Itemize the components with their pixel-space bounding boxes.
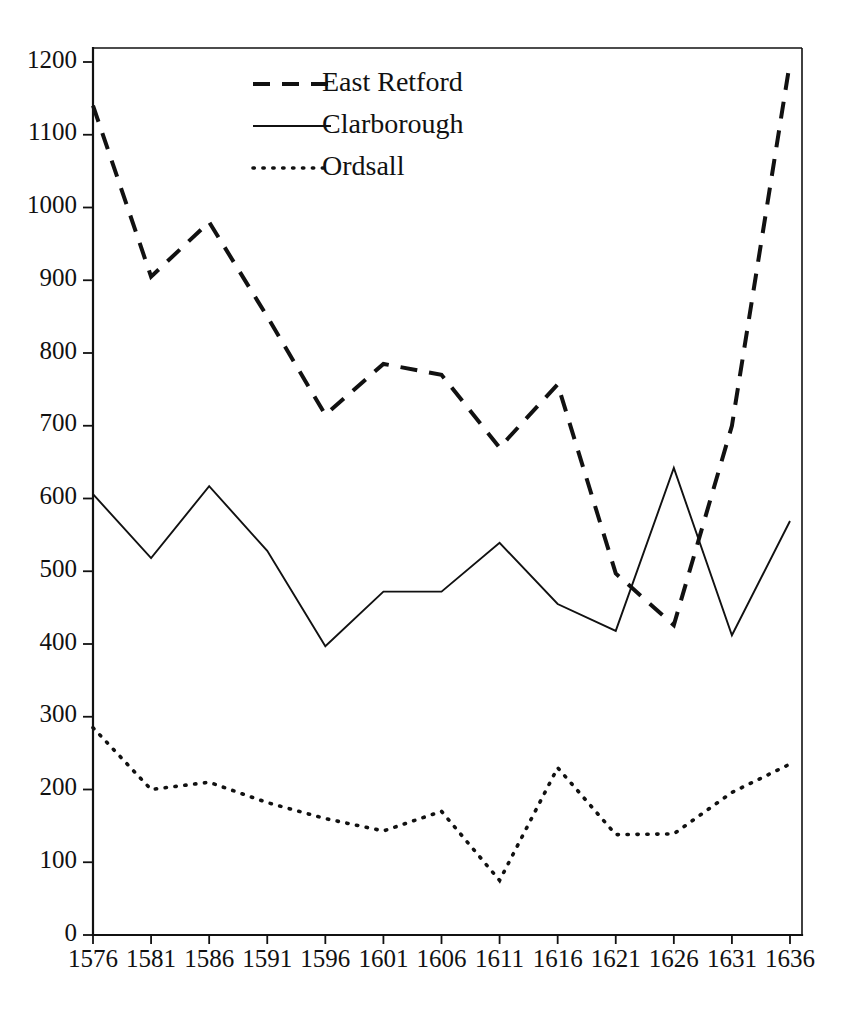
- series-line-ordsall: [93, 728, 790, 881]
- x-axis-tick-label: 1621: [591, 945, 641, 972]
- chart-legend: East RetfordClarboroughOrdsall: [253, 66, 464, 181]
- y-axis-tick-label: 700: [40, 409, 78, 436]
- y-axis-tick-label: 500: [40, 555, 78, 582]
- series-line-east-retford: [93, 62, 790, 625]
- y-axis-tick-label: 400: [40, 628, 78, 655]
- y-axis-tick-label: 300: [40, 700, 78, 727]
- data-series-group: [93, 62, 790, 880]
- y-axis-tick-label: 1200: [27, 46, 77, 73]
- x-axis-ticks: 1576158115861591159616011606161116161621…: [68, 935, 815, 972]
- legend-label-clarborough: Clarborough: [322, 108, 464, 139]
- y-axis-tick-label: 200: [40, 773, 78, 800]
- x-axis-tick-label: 1596: [300, 945, 350, 972]
- line-chart: 0100200300400500600700800900100011001200…: [0, 0, 850, 1013]
- series-line-clarborough: [93, 468, 790, 646]
- legend-label-ordsall: Ordsall: [322, 150, 405, 181]
- y-axis-tick-label: 600: [40, 482, 78, 509]
- y-axis-tick-label: 800: [40, 337, 78, 364]
- x-axis-tick-label: 1591: [242, 945, 292, 972]
- x-axis-tick-label: 1601: [358, 945, 408, 972]
- y-axis-ticks: 0100200300400500600700800900100011001200: [27, 46, 93, 946]
- y-axis-tick-label: 100: [40, 846, 78, 873]
- x-axis-tick-label: 1606: [417, 945, 467, 972]
- x-axis-tick-label: 1586: [184, 945, 234, 972]
- y-axis-tick-label: 1000: [27, 191, 77, 218]
- x-axis-tick-label: 1626: [649, 945, 699, 972]
- y-axis-tick-label: 0: [65, 919, 78, 946]
- x-axis-tick-label: 1636: [765, 945, 815, 972]
- chart-container: 0100200300400500600700800900100011001200…: [0, 0, 850, 1013]
- chart-frame: [93, 48, 802, 935]
- x-axis-tick-label: 1631: [707, 945, 757, 972]
- y-axis-tick-label: 900: [40, 264, 78, 291]
- x-axis-tick-label: 1581: [126, 945, 176, 972]
- legend-label-east-retford: East Retford: [322, 66, 463, 97]
- x-axis-tick-label: 1611: [475, 945, 524, 972]
- x-axis-tick-label: 1616: [533, 945, 583, 972]
- x-axis-tick-label: 1576: [68, 945, 118, 972]
- y-axis-tick-label: 1100: [28, 118, 77, 145]
